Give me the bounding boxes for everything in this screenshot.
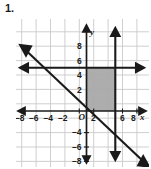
x-tick-label--8: –8 — [16, 114, 24, 123]
y-tick-label-4: 4 — [77, 71, 82, 80]
y-tick-label-8: 8 — [77, 42, 82, 51]
x-tick-label-2: 2 — [91, 114, 96, 123]
y-tick-label--6: –6 — [72, 143, 81, 152]
shaded-solution-region — [87, 68, 116, 111]
graph-canvas — [16, 19, 149, 167]
x-tick-label-6: 6 — [120, 114, 125, 123]
y-tick-label--8: –8 — [72, 157, 81, 166]
problem-number: 1. — [5, 2, 14, 14]
x-tick-label--4: –4 — [44, 114, 53, 123]
x-tick-label--2: –2 — [58, 114, 67, 123]
x-tick-label--6: –6 — [29, 114, 38, 123]
coordinate-graph: –8 –6 –4 –2 2 6 8 8 6 4 2 –4 –6 –8 O y x — [16, 19, 149, 167]
x-tick-label-8: 8 — [131, 114, 136, 123]
x-axis-label: x — [140, 113, 145, 122]
origin-label: O — [79, 113, 86, 122]
y-tick-label-6: 6 — [77, 57, 82, 66]
y-tick-label--4: –4 — [72, 128, 81, 137]
y-tick-label-2: 2 — [77, 86, 82, 95]
y-axis-label: y — [90, 28, 94, 37]
